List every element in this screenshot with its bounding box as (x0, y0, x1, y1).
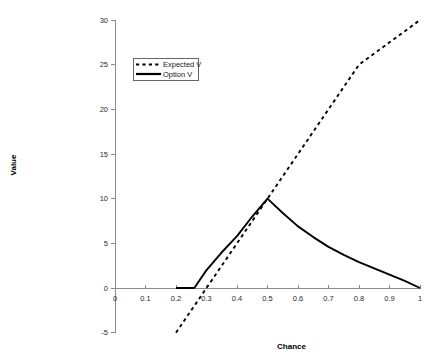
legend-label-expected-v: Expected V (163, 60, 201, 69)
x-tick-label: 0.9 (384, 294, 394, 303)
y-tick-label: -5 (101, 328, 108, 337)
y-tick-label: 5 (104, 239, 108, 248)
x-tick-label: 0.2 (171, 294, 181, 303)
x-tick-label: 0.4 (232, 294, 242, 303)
y-tick-label: 30 (100, 16, 108, 25)
x-tick-label: 0.7 (323, 294, 333, 303)
y-tick-label: 20 (100, 105, 108, 114)
y-tick-label: 15 (100, 150, 108, 159)
y-tick-label: 0 (104, 284, 108, 293)
chart-container: -505101520253000.10.20.30.40.50.60.70.80… (0, 0, 434, 357)
line-chart: -505101520253000.10.20.30.40.50.60.70.80… (0, 0, 434, 357)
x-tick-label: 0.8 (354, 294, 364, 303)
series-option-v (176, 199, 420, 288)
legend-label-option-v: Option V (163, 70, 192, 79)
y-tick-label: 25 (100, 60, 108, 69)
x-axis-title: Chance (277, 342, 306, 351)
y-axis-title: Value (9, 154, 18, 175)
x-tick-label: 0.6 (293, 294, 303, 303)
x-tick-label: 0.3 (201, 294, 211, 303)
y-tick-label: 10 (100, 194, 108, 203)
x-tick-label: 0 (113, 294, 117, 303)
x-tick-label: 0.1 (140, 294, 150, 303)
x-tick-label: 0.5 (262, 294, 272, 303)
x-tick-label: 1 (418, 294, 422, 303)
